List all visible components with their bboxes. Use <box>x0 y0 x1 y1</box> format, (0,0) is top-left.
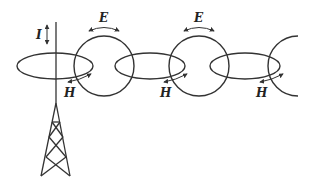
em-wave-diagram: I E E H H H <box>0 0 314 189</box>
current-indicator: I <box>35 25 47 44</box>
electric-loop-1 <box>74 36 134 96</box>
h-label-1: H <box>63 86 76 100</box>
e-field-arrows <box>89 28 214 32</box>
e-arrow-icon-1 <box>89 28 119 32</box>
e-label-1: E <box>98 11 109 25</box>
magnetic-loop-1 <box>17 53 93 79</box>
magnetic-loop-2 <box>115 53 185 79</box>
electric-loop-partial <box>268 36 298 96</box>
electric-loop-2 <box>169 36 229 96</box>
current-label: I <box>35 28 42 42</box>
e-arrow-icon-2 <box>184 28 214 32</box>
h-label-3: H <box>255 86 268 100</box>
h-label-2: H <box>159 86 172 100</box>
e-label-2: E <box>193 11 204 25</box>
